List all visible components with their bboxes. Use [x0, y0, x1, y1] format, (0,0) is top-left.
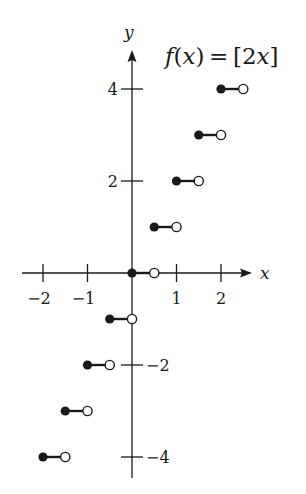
axes [22, 50, 252, 478]
chart-title: f(x) = [2x] [163, 43, 279, 69]
open-dot-icon [216, 130, 225, 139]
step-segment [194, 130, 225, 139]
x-tick-label: 1 [171, 289, 181, 308]
open-dot-icon [172, 222, 181, 231]
closed-dot-icon [38, 452, 47, 461]
y-axis-label: y [123, 22, 134, 42]
open-dot-icon [105, 360, 114, 369]
closed-dot-icon [194, 130, 203, 139]
y-tick-label: 4 [108, 80, 118, 99]
step-segment [172, 176, 203, 185]
closed-dot-icon [172, 176, 181, 185]
step-segment [38, 452, 69, 461]
x-tick-label: −2 [27, 289, 51, 308]
closed-dot-icon [150, 222, 159, 231]
open-dot-icon [83, 406, 92, 415]
step-segment [105, 314, 136, 323]
open-dot-icon [127, 314, 136, 323]
open-dot-icon [61, 452, 70, 461]
x-axis-label: x [260, 263, 270, 283]
closed-dot-icon [83, 360, 92, 369]
open-dot-icon [239, 84, 248, 93]
closed-dot-icon [127, 268, 136, 277]
step-segment [150, 222, 181, 231]
step-segment [127, 268, 158, 277]
y-tick-label: −4 [146, 448, 170, 467]
open-dot-icon [150, 268, 159, 277]
step-segment [83, 360, 114, 369]
y-tick-label: −2 [146, 356, 170, 375]
x-tick-label: −1 [72, 289, 96, 308]
closed-dot-icon [105, 314, 114, 323]
step-segment [216, 84, 247, 93]
step-segment [61, 406, 92, 415]
open-dot-icon [194, 176, 203, 185]
closed-dot-icon [216, 84, 225, 93]
x-tick-label: 2 [216, 289, 226, 308]
step-function-chart: −2−11242−2−4 f(x) = [2x] x y [0, 0, 306, 494]
closed-dot-icon [61, 406, 70, 415]
y-tick-label: 2 [108, 172, 118, 191]
